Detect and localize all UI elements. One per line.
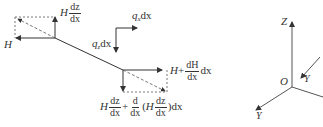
coordinate-axes bbox=[256, 22, 323, 110]
label-h-left: H bbox=[4, 39, 12, 50]
fraction-dz-dx: dzdx bbox=[69, 2, 81, 24]
dashed-resultant-left bbox=[18, 19, 55, 38]
label-h-dz-dx: Hdzdx bbox=[60, 2, 82, 24]
axis-label-z: Z bbox=[281, 16, 287, 27]
cable-segment bbox=[55, 38, 123, 70]
axis-label-origin: O bbox=[280, 76, 288, 87]
label-h: H bbox=[60, 6, 68, 18]
axis-label-y-lower: Y bbox=[256, 111, 262, 121]
label-h-plus-dh: H+dHdxdx bbox=[170, 60, 211, 82]
left-node-forces bbox=[15, 17, 55, 38]
label-bottom-expression: Hdzdx+ddx(Hdzdx)dx bbox=[100, 96, 182, 118]
dashed-resultant-right bbox=[123, 70, 165, 91]
x-axis bbox=[292, 87, 323, 97]
axis-label-y-upper: Y bbox=[304, 74, 310, 84]
diagram-canvas: H Hdzdx qxdx qzdx H+dHdxdx Hdzdx+ddx(Hdz… bbox=[0, 0, 323, 127]
label-qz-dx: qzdx bbox=[92, 38, 111, 51]
right-node-forces bbox=[123, 70, 167, 92]
label-qx-dx: qxdx bbox=[132, 10, 152, 23]
y-axis-lower bbox=[256, 87, 292, 110]
distributed-loads bbox=[116, 28, 137, 52]
